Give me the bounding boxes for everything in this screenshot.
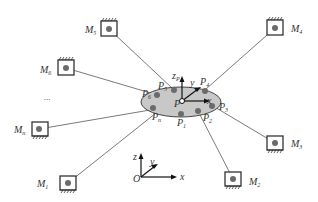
motor-m1: M1: [36, 176, 76, 193]
label-yp: y: [189, 77, 195, 88]
motor-m3: M3: [267, 136, 302, 153]
moving-platform: zP y x P P5 P4 P6 Pn P1 P2 P3: [141, 70, 228, 129]
anchor-p2: [195, 108, 201, 114]
svg-text:M5: M5: [84, 24, 96, 36]
cable-m4-p4: [206, 28, 275, 89]
svg-text:Mn: Mn: [13, 124, 25, 136]
svg-text:M6: M6: [39, 64, 51, 76]
label-p4: P4: [199, 76, 209, 88]
anchor-p5: [171, 87, 177, 93]
label-p6: P6: [141, 88, 151, 100]
platform-origin: [180, 99, 185, 104]
cable-mn-pn: [39, 110, 150, 129]
world-x-label: x: [179, 171, 185, 182]
label-p3: P3: [218, 101, 228, 113]
svg-text:M2: M2: [248, 176, 260, 188]
label-p-center: P: [173, 98, 180, 109]
cable-m1-p1: [68, 113, 156, 183]
svg-text:M1: M1: [36, 178, 48, 190]
cable-m6-p6: [66, 68, 154, 94]
anchor-p4: [202, 88, 208, 94]
motor-mn: Mn: [13, 122, 48, 139]
label-p2: P2: [202, 112, 212, 124]
label-xp: x: [206, 95, 212, 106]
ellipsis: ...: [44, 92, 51, 102]
world-origin-label: O: [133, 173, 140, 184]
motor-m6: M6: [39, 57, 74, 76]
motor-m2: M2: [225, 172, 260, 189]
world-frame: O z y x: [132, 151, 185, 184]
svg-text:M4: M4: [290, 23, 302, 35]
svg-text:M3: M3: [290, 138, 302, 150]
world-z-label: z: [132, 151, 137, 162]
world-y-label: y: [149, 156, 155, 167]
cable-robot-diagram: zP y x P P5 P4 P6 Pn P1 P2 P3 M5 M4 M6 M…: [0, 0, 318, 202]
motor-m4: M4: [267, 17, 302, 35]
label-zp: zP: [171, 70, 180, 82]
label-p1: P1: [176, 117, 186, 129]
anchor-p6: [154, 92, 160, 98]
motor-m5: M5: [84, 18, 117, 36]
